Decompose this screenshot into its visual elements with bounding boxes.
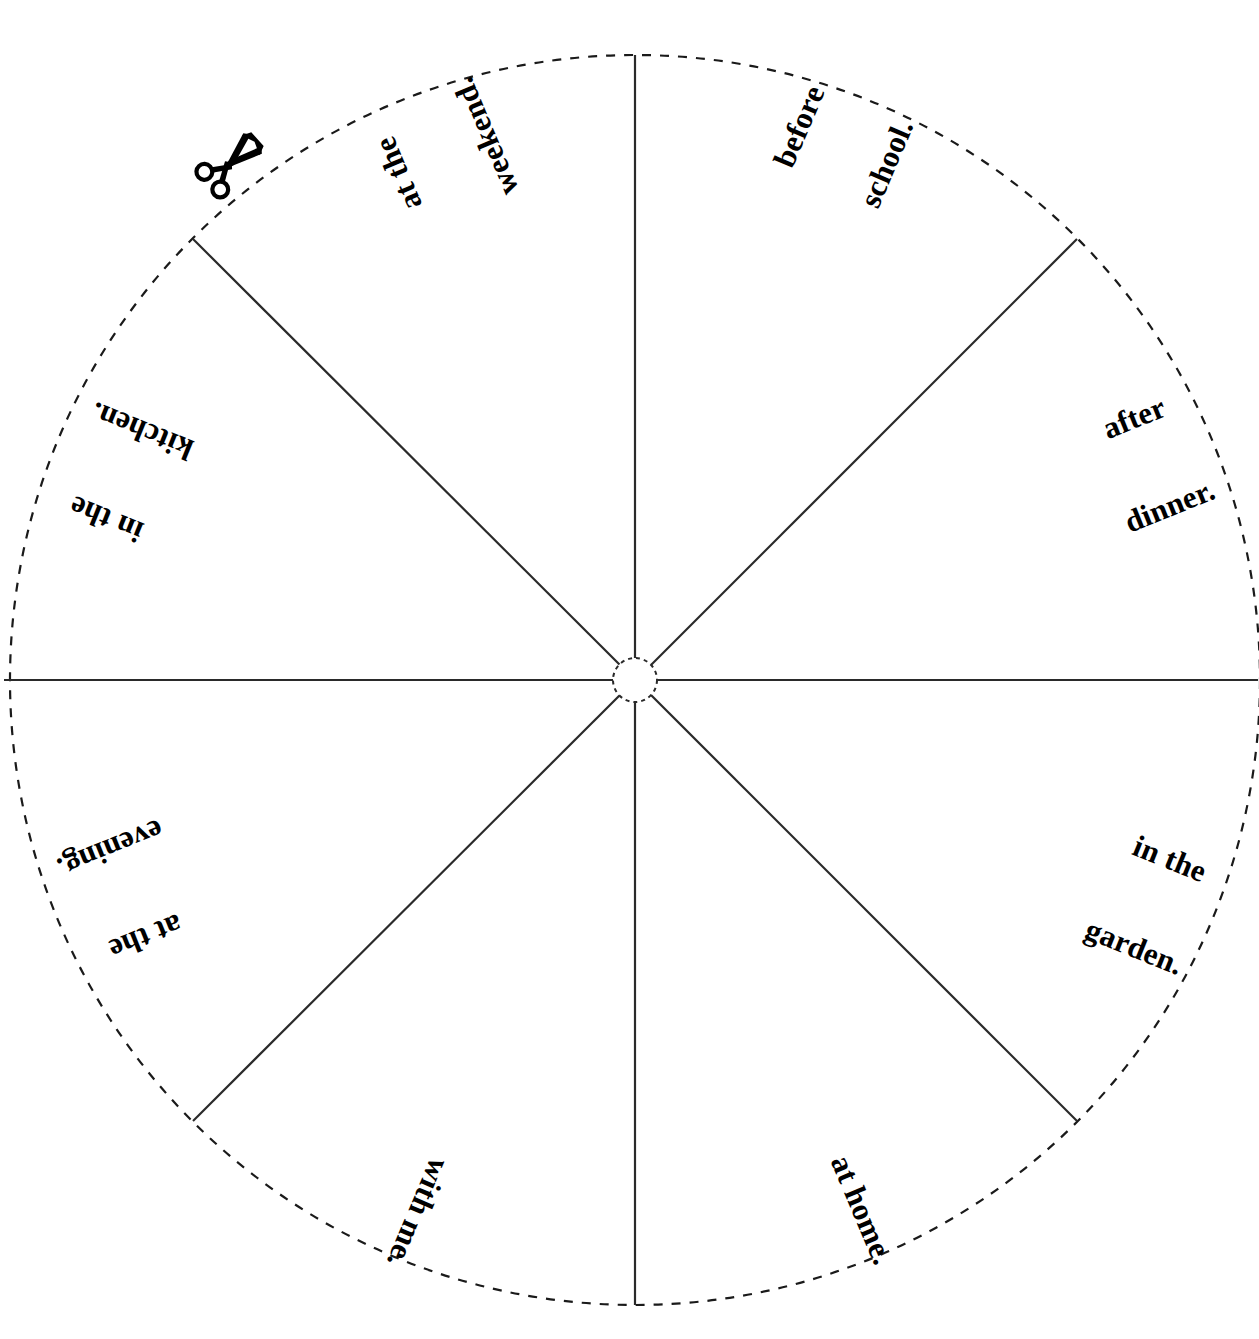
spoke-northeast bbox=[651, 239, 1077, 665]
sector-line: before bbox=[767, 78, 832, 175]
wheel-hub-circle bbox=[613, 658, 657, 702]
sector-line: school. bbox=[854, 115, 919, 212]
sector-line: with me. bbox=[381, 1154, 455, 1272]
sector-line: dinner. bbox=[1120, 474, 1219, 539]
sector-line: at the bbox=[88, 902, 203, 973]
sector-line: in the bbox=[50, 484, 162, 554]
spoke-northwest bbox=[193, 239, 620, 665]
sector-line: evening. bbox=[53, 814, 168, 885]
scissors-icon bbox=[193, 125, 271, 201]
sector-line: garden. bbox=[1081, 913, 1188, 981]
sector-line: at the bbox=[359, 110, 437, 237]
sector-line: after bbox=[1085, 386, 1184, 451]
spoke-southwest bbox=[193, 695, 620, 1121]
spinner-wheel-graphic bbox=[0, 0, 1259, 1339]
worksheet-page: before school. after dinner. in the gard… bbox=[0, 0, 1259, 1339]
spoke-southeast bbox=[651, 695, 1077, 1121]
sector-line: in the bbox=[1116, 825, 1223, 893]
sector-line: kitchen. bbox=[86, 396, 198, 466]
sector-line: weekend. bbox=[447, 73, 525, 200]
sector-line: at home. bbox=[825, 1151, 899, 1269]
